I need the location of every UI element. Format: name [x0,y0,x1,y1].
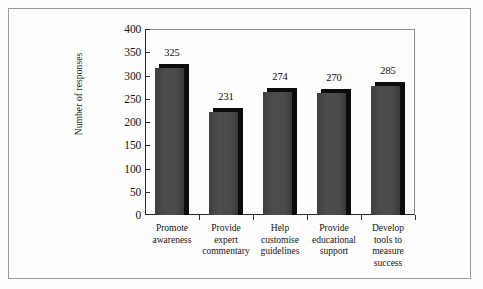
x-axis-category-label-line: Provide [199,223,253,235]
y-axis-tick-mark [145,52,150,53]
y-axis-tick-label: 100 [107,163,141,175]
y-axis-tick-mark [145,145,150,146]
bar-side-face [346,89,351,215]
bar-front-face [371,86,399,215]
y-axis-tick-label: 400 [107,23,141,35]
x-axis-category-label: Helpcustomiseguidelines [253,223,307,258]
bar-front-face [209,112,237,215]
x-axis-category-label-line: awareness [145,235,199,247]
bar-side-face [400,82,405,215]
bar-front-face [263,92,291,215]
x-axis-category-label: Developtools tomeasuresuccess [361,223,415,269]
bar[interactable] [263,88,296,215]
bar-side-face [238,108,243,215]
bar-value-label: 274 [263,71,296,82]
y-axis-tick-labels: 400350300250200150100500 [107,29,141,215]
x-axis-category-label-line: Provide [307,223,361,235]
x-axis-category-label-line: tools to [361,235,415,247]
bar-front-face [317,93,345,215]
bar-slot: 231 [209,29,242,215]
y-axis-tick-mark [145,76,150,77]
y-axis-tick-mark [145,169,150,170]
y-axis-tick-mark [145,29,150,30]
bars-layer: 325231274270285 [145,29,415,215]
bar-slot: 270 [317,29,350,215]
x-axis-tick-mark [361,215,362,220]
bar-slot: 325 [155,29,188,215]
x-axis-category-label-line: support [307,246,361,258]
x-axis-category-label: Provideeducationalsupport [307,223,361,258]
bar-value-label: 285 [371,65,404,76]
x-axis-category-label-line: educational [307,235,361,247]
y-axis-tick-mark [145,192,150,193]
bar-slot: 285 [371,29,404,215]
y-axis-tick-label: 350 [107,46,141,58]
x-axis-tick-mark [307,215,308,220]
x-axis-category-label: Promoteawareness [145,223,199,246]
bar-value-label: 231 [209,91,242,102]
x-axis-category-label-line: guidelines [253,246,307,258]
x-axis-category-label-line: Promote [145,223,199,235]
bar[interactable] [317,89,350,215]
y-axis-tick-mark [145,99,150,100]
x-axis-category-labels: PromoteawarenessProvideexpertcommentaryH… [145,223,415,283]
x-axis-category-label-line: expert [199,235,253,247]
y-axis-title: Number of responses [74,14,84,174]
bar-value-label: 270 [317,72,350,83]
bar[interactable] [371,82,404,215]
y-axis-tick-label: 150 [107,139,141,151]
y-axis-tick-label: 50 [107,186,141,198]
y-axis-tick-label: 0 [107,209,141,221]
x-axis-category-label: Provideexpertcommentary [199,223,253,258]
y-axis-tick-label: 200 [107,116,141,128]
bar-value-label: 325 [155,47,188,58]
bar-side-face [292,88,297,215]
bar[interactable] [155,64,188,215]
chart-screenshot: Number of responses 40035030025020015010… [0,0,483,289]
y-axis-tick-mark [145,122,150,123]
bar[interactable] [209,108,242,215]
x-axis-tick-mark [199,215,200,220]
figure-frame: Number of responses 40035030025020015010… [8,8,471,279]
bar-side-face [184,64,189,215]
x-axis-category-label-line: customise [253,235,307,247]
bar-front-face [155,68,183,215]
x-axis-category-label-line: Help [253,223,307,235]
x-axis-category-label-line: commentary [199,246,253,258]
x-axis-category-label-line: measure [361,246,415,258]
x-axis-category-label-line: success [361,258,415,270]
y-axis-tick-label: 250 [107,93,141,105]
x-axis-tick-mark [253,215,254,220]
x-axis-category-label-line: Develop [361,223,415,235]
x-axis-tick-mark [415,215,416,220]
bar-slot: 274 [263,29,296,215]
y-axis-tick-label: 300 [107,70,141,82]
